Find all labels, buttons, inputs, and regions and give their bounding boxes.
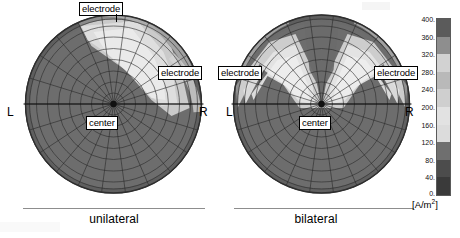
colorbar-band-360-320	[437, 37, 450, 55]
colorbar: 400. 360. 320. 280. 240. 200. 160. 120. …	[416, 16, 460, 216]
head-diagram-unilateral	[22, 12, 207, 195]
colorbar-band-120-80	[437, 142, 450, 160]
colorbar-tick-280: 280.	[415, 69, 435, 76]
colorbar-unit-label: [A/m2]	[412, 198, 438, 210]
right-label-unilateral: R	[199, 106, 208, 118]
colorbar-tick-0: 0.	[415, 190, 435, 197]
colorbar-band-160-120	[437, 125, 450, 143]
left-label-bilateral: L	[226, 106, 233, 118]
left-label-unilateral: L	[7, 106, 14, 118]
colorbar-tick-240: 240.	[415, 86, 435, 93]
panel-unilateral: electrode electrode center L R unilatera…	[0, 0, 228, 238]
colorbar-band-320-280	[437, 54, 450, 72]
colorbar-band-40-0	[437, 177, 450, 195]
colorbar-tick-40: 40.	[415, 174, 435, 181]
colorbar-unit-text: [A/m	[412, 199, 432, 210]
electrode-label-bilateral-left: electrode	[218, 66, 262, 80]
colorbar-tick-200: 200.	[415, 104, 435, 111]
electrode-label-unilateral-right: electrode	[158, 66, 202, 80]
head-mesh-bilateral	[230, 12, 415, 195]
panel-bilateral: electrode electrode center L R bilateral	[222, 0, 422, 238]
colorbar-tick-160: 160.	[415, 122, 435, 129]
colorbar-band-200-160	[437, 107, 450, 125]
center-label-unilateral: center	[86, 116, 118, 130]
electrode-leader-unilateral-top	[116, 14, 117, 22]
caption-bilateral: bilateral	[216, 212, 416, 226]
colorbar-tick-320: 320.	[415, 51, 435, 58]
colorbar-band-280-240	[437, 72, 450, 90]
electrode-label-bilateral-right: electrode	[374, 66, 418, 80]
colorbar-tick-120: 120.	[415, 139, 435, 146]
colorbar-unit-close: ]	[435, 199, 438, 210]
colorbar-tick-80: 80.	[415, 157, 435, 164]
colorbar-band-240-200	[437, 89, 450, 107]
divider-rule-bilateral	[234, 208, 414, 209]
colorbar-tick-400: 400.	[415, 16, 435, 23]
divider-rule-unilateral	[23, 208, 205, 209]
head-diagram-bilateral	[230, 12, 415, 195]
scan-artifact	[0, 222, 60, 232]
colorbar-tick-360: 360.	[415, 34, 435, 41]
colorbar-band-400-360	[437, 19, 450, 37]
colorbar-band-80-40	[437, 160, 450, 178]
head-mesh-unilateral	[22, 12, 207, 195]
colorbar-strip	[436, 18, 451, 196]
scan-artifact	[362, 2, 390, 10]
right-label-bilateral: R	[405, 106, 414, 118]
center-label-bilateral: center	[299, 116, 331, 130]
